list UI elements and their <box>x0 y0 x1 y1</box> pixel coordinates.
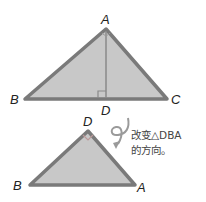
rotation-note: 改变△DBA 的方向。 <box>131 128 182 158</box>
label-a: A <box>101 12 110 27</box>
rotate-arrow-icon <box>112 118 129 144</box>
label-d: D <box>101 103 110 118</box>
label-a2: A <box>137 180 146 195</box>
label-d2: D <box>83 114 92 129</box>
note-line-1: 改变△DBA <box>131 128 182 143</box>
triangle-abc <box>25 29 167 99</box>
triangle-dba <box>30 131 135 185</box>
note-line-2: 的方向。 <box>131 143 182 158</box>
label-b2: B <box>13 178 22 193</box>
label-b: B <box>10 92 19 107</box>
label-c: C <box>171 92 180 107</box>
arrowhead-icon <box>113 141 120 149</box>
